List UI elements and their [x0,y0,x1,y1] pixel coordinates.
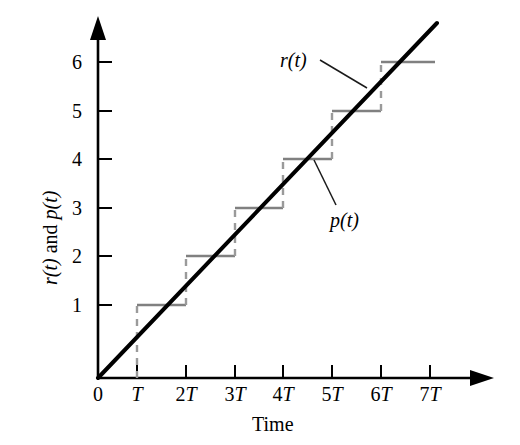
y-axis-title: r(t) and p(t) [40,191,60,285]
x-tick-6T-prefix: 6 [370,383,380,405]
x-tick-1T-symbol: T [131,383,142,405]
y-axis-title-and: and [39,219,61,258]
x-tick-marks [137,365,430,378]
x-tick-4T-symbol: T [282,383,293,405]
y-axis-title-r: r(t) [39,258,61,285]
x-tick-2T-prefix: 2 [175,383,185,405]
annotation-r-of-t: r(t) [280,50,307,70]
x-tick-6T-symbol: T [380,383,391,405]
x-tick-label-4T: 4T [266,384,300,404]
x-tick-4T-prefix: 4 [272,383,282,405]
axis-group [90,16,494,386]
x-tick-label-6T: 6T [364,384,398,404]
x-tick-label-1T: T [123,384,151,404]
x-tick-label-5T: 5T [315,384,349,404]
annotation-p-of-t-text: p(t) [330,209,359,231]
series-r-of-t-line [98,23,437,378]
x-tick-3T-prefix: 3 [224,383,234,405]
y-tick-marks [98,62,112,305]
chart-figure: 6 5 4 3 2 1 0 T 2T 3T 4T 5T 6T 7T Time r… [0,0,520,445]
annotation-r-of-t-text: r(t) [280,49,307,71]
x-tick-5T-prefix: 5 [321,383,331,405]
x-tick-2T-symbol: T [185,383,196,405]
y-axis-title-p: p(t) [39,191,61,220]
x-tick-5T-symbol: T [331,383,342,405]
x-tick-label-2T: 2T [169,384,203,404]
x-tick-label-origin: 0 [87,384,109,404]
y-tick-label-1: 1 [66,295,88,315]
x-axis-arrow-icon [470,370,494,386]
x-tick-label-7T: 7T [413,384,447,404]
y-tick-label-2: 2 [66,246,88,266]
leader-line-r-of-t [320,60,367,88]
x-tick-7T-prefix: 7 [419,383,429,405]
x-axis-title: Time [252,414,294,434]
y-tick-label-4: 4 [66,149,88,169]
x-tick-label-3T: 3T [218,384,252,404]
x-tick-3T-symbol: T [234,383,245,405]
y-tick-label-3: 3 [66,198,88,218]
annotation-p-of-t: p(t) [330,210,359,230]
y-tick-label-5: 5 [66,101,88,121]
leader-line-p-of-t [314,160,336,205]
y-tick-label-6: 6 [66,52,88,72]
y-axis-arrow-icon [90,16,106,40]
x-tick-7T-symbol: T [429,383,440,405]
